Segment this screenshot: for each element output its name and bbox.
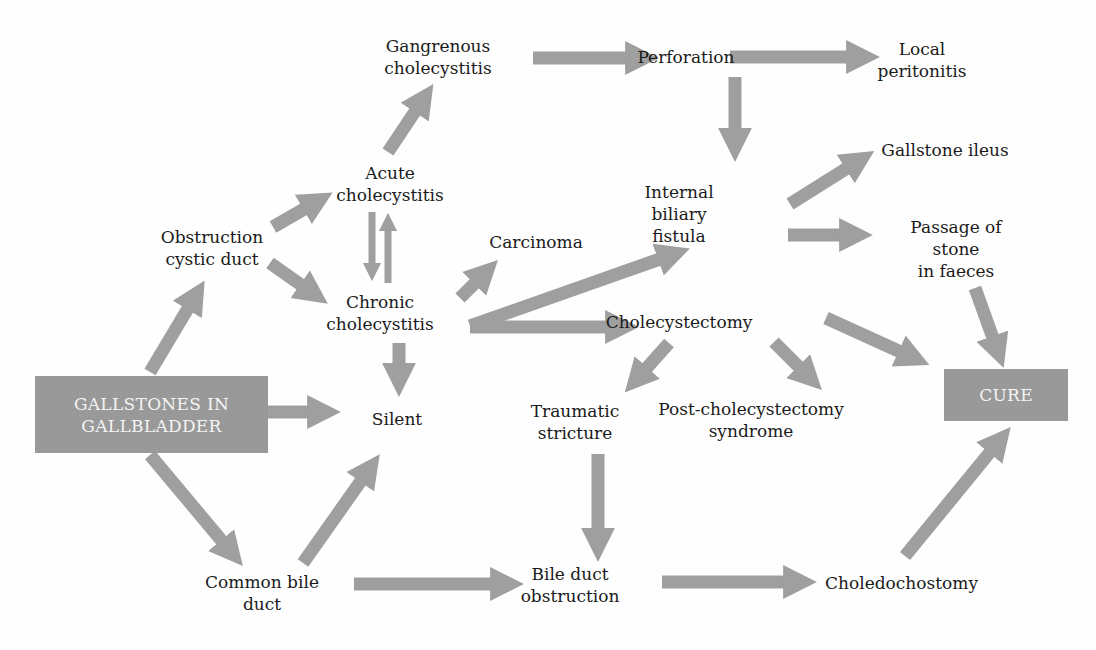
arrow-cbd-to-silent <box>303 468 370 563</box>
node-common-bile-duct: Common bile duct <box>205 571 319 615</box>
arrow-chronic-to-carcinoma <box>460 272 486 298</box>
arrow-gallstones-to-obstruction <box>150 295 196 372</box>
arrow-cholecystectomy-to-postchole <box>774 342 810 378</box>
arrow-cholecystectomy-to-stricture <box>636 343 669 380</box>
node-local-peritonitis: Local peritonitis <box>852 38 992 82</box>
diagram-canvas: GALLSTONES IN GALLBLADDER CURE Obstructi… <box>0 0 1096 650</box>
node-cholecystectomy: Cholecystectomy <box>606 311 753 333</box>
arrow-gallstones-to-cbd <box>150 455 232 553</box>
arrow-choledochostomy-to-cure <box>905 440 1000 556</box>
arrow-acute-to-gangrenous <box>388 98 424 152</box>
arrows-layer <box>0 0 1096 650</box>
node-traumatic-stricture: Traumatic stricture <box>531 400 620 444</box>
node-acute-cholecystitis: Acute cholecystitis <box>336 162 443 206</box>
arrow-fistula-to-ileus <box>790 160 860 204</box>
node-obstruction-cystic-duct: Obstruction cystic duct <box>161 226 263 270</box>
gallstones-in-gallbladder-box: GALLSTONES IN GALLBLADDER <box>35 376 268 453</box>
node-gallstone-ileus: Gallstone ileus <box>881 139 1008 161</box>
node-chronic-cholecystitis: Chronic cholecystitis <box>326 291 433 335</box>
arrow-obstruction-to-acute <box>273 201 318 227</box>
node-gangrenous-cholecystitis: Gangrenous cholecystitis <box>384 35 491 79</box>
cure-box: CURE <box>944 369 1068 421</box>
arrow-obstruction-to-chronic <box>270 263 314 294</box>
node-internal-biliary-fistula: Internal biliary fistula <box>644 181 713 247</box>
node-choledochostomy: Choledochostomy <box>825 572 978 594</box>
node-carcinoma: Carcinoma <box>489 231 583 253</box>
node-perforation: Perforation <box>637 46 734 68</box>
node-passage-of-stone: Passage of stone in faeces <box>886 216 1026 282</box>
node-bile-duct-obstruction: Bile duct obstruction <box>521 563 620 607</box>
node-silent: Silent <box>372 408 422 430</box>
arrow-cholecystectomy-to-cure <box>826 318 914 358</box>
arrow-passage-to-cure <box>975 288 998 352</box>
node-post-cholecystectomy-syndrome: Post-cholecystectomy syndrome <box>658 398 844 442</box>
